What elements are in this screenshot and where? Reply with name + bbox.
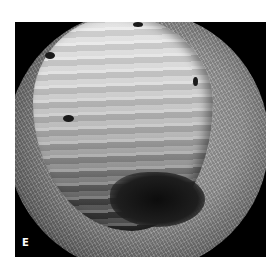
dark-pocket-region [110, 172, 205, 227]
lesion-spot [45, 52, 55, 59]
lesion-spot [63, 115, 74, 122]
lesion-spot [133, 22, 143, 27]
panel-label: E [22, 237, 29, 248]
endoscopic-image: E [15, 22, 266, 257]
lesion-spot [193, 77, 198, 86]
